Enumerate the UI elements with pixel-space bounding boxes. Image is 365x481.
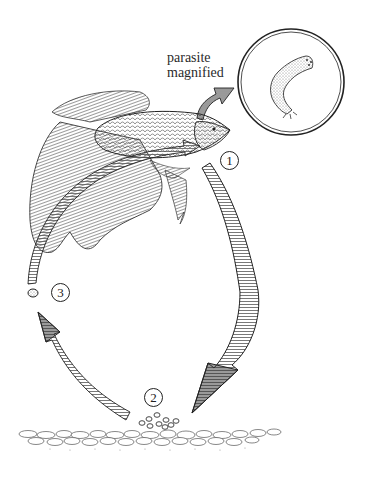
gravel-substrate (19, 429, 281, 446)
callout-line-2: magnified (167, 65, 224, 80)
callout-label: parasite magnified (167, 50, 224, 80)
stage-3-badge: 3 (51, 283, 70, 302)
callout-line-1: parasite (167, 50, 224, 65)
gravel-dust (49, 447, 245, 450)
free-swimming-parasite (28, 289, 38, 297)
magnifier-ring-outer (238, 29, 344, 135)
arrow-stage2-to-stage3 (38, 312, 130, 420)
fish-eye (212, 127, 215, 130)
arrow-stage1-to-stage2 (192, 163, 259, 413)
stage-2-badge: 2 (144, 388, 163, 407)
life-cycle-diagram: parasite magnified 1 2 3 (0, 0, 365, 481)
arrow-to-magnifier (197, 88, 234, 120)
pelvic-fin (165, 170, 187, 224)
stage-1-badge: 1 (220, 151, 239, 170)
cysts-cluster (139, 413, 179, 430)
magnified-parasite-callout (238, 29, 344, 135)
